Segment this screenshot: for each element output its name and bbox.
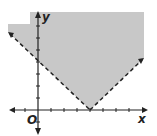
y-axis-label: y [42,10,51,24]
x-axis-label: x [137,112,147,126]
x-axis-arrow-left [9,107,15,113]
y-axis-arrow-down [35,128,41,135]
inequality-graph: y x O [0,0,157,136]
label-backdrop [0,0,30,24]
shaded-region [8,12,144,110]
origin-label: O [27,113,37,127]
